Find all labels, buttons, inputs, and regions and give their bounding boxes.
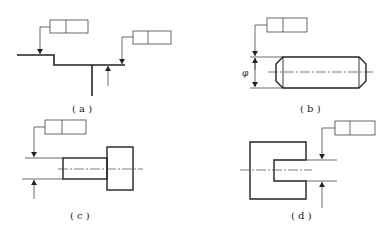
diagram-canvas: ( a ) φ ( b ) ( c )	[0, 0, 387, 235]
diameter-symbol: φ	[242, 68, 249, 78]
stepped-profile	[17, 55, 125, 65]
cylinder-pin	[276, 57, 366, 88]
leader-line-left	[40, 27, 50, 54]
tolerance-frame	[267, 18, 307, 32]
shaft	[63, 158, 107, 179]
panel-label-c: ( c )	[70, 210, 90, 221]
shaft-head	[107, 147, 133, 190]
tolerance-frame-left	[50, 20, 88, 33]
tolerance-frame-right	[133, 31, 171, 44]
leader-line	[255, 25, 267, 56]
panel-d: ( d )	[240, 121, 375, 221]
panel-a: ( a )	[17, 20, 171, 114]
leader-line-right	[122, 37, 133, 64]
slotted-block	[250, 142, 306, 199]
leader-line	[322, 128, 335, 159]
panel-label-d: ( d )	[291, 210, 312, 221]
leader-line	[34, 127, 45, 157]
panel-b: φ ( b )	[242, 18, 373, 114]
tolerance-frame	[45, 120, 86, 134]
panel-label-b: ( b )	[300, 103, 321, 114]
tolerance-frame	[335, 121, 375, 135]
panel-c: ( c )	[22, 120, 143, 221]
panel-label-a: ( a )	[72, 103, 92, 114]
